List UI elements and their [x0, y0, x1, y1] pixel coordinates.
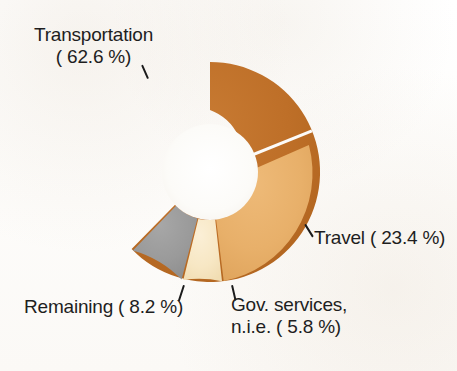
slice-label-remaining-text: Remaining ( 8.2 %): [24, 296, 183, 318]
slice-label-travel-text: Travel ( 23.4 %): [314, 227, 445, 249]
slice-label-gov-services: Gov. services, n.i.e. ( 5.8 %): [231, 294, 347, 338]
slice-label-transportation-value: ( 62.6 %): [34, 46, 153, 68]
slice-label-travel: Travel ( 23.4 %): [314, 227, 445, 249]
donut-hole: [162, 124, 258, 220]
slice-label-transportation: Transportation ( 62.6 %): [34, 24, 153, 68]
slice-label-gov-services-value: n.i.e. ( 5.8 %): [231, 316, 347, 338]
slice-label-remaining: Remaining ( 8.2 %): [24, 296, 183, 318]
slice-label-gov-services-name: Gov. services,: [231, 294, 347, 316]
donut-chart-figure: Transportation ( 62.6 %) Travel ( 23.4 %…: [0, 0, 457, 371]
slice-label-transportation-name: Transportation: [34, 24, 153, 46]
